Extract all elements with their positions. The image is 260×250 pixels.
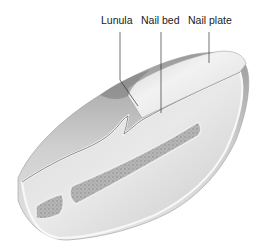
lunula-label: Lunula	[101, 14, 133, 26]
finger-illustration	[0, 0, 260, 250]
nail-anatomy-diagram: Lunula Nail bed Nail plate	[0, 0, 260, 250]
nail-bed-label: Nail bed	[141, 14, 180, 26]
nail-plate-label: Nail plate	[188, 14, 232, 26]
